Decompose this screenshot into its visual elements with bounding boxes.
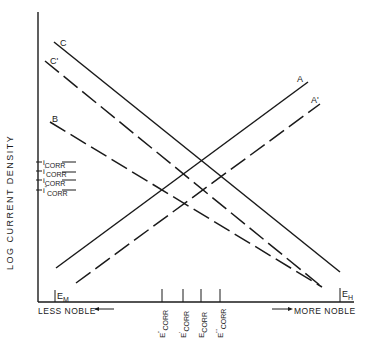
more-noble-label: MORE NOBLE (294, 306, 356, 316)
e-corr-label-2: E'CORR (178, 311, 190, 338)
e-corr-label-4: E'''CORR (215, 309, 227, 338)
label-B: B (52, 114, 58, 124)
e-corr-label-1: E"CORR (157, 310, 169, 338)
em-marker: EM (55, 290, 69, 303)
line-A (56, 82, 308, 268)
label-C-prime: C' (50, 56, 58, 66)
arrow-right-icon (272, 307, 293, 311)
less-noble-label: LESS NOBLE (38, 306, 96, 316)
line-C-prime (45, 61, 322, 287)
e-corr-label-3: ECORR (197, 312, 208, 338)
y-axis-label: LOG CURRENT DENSITY (5, 135, 15, 270)
label-C: C (60, 38, 67, 48)
label-A: A (297, 74, 303, 84)
potential-ticks (162, 289, 220, 302)
eh-marker: EH (340, 288, 353, 302)
current-labels: iCORR i'CORR iCORR i"CORR (36, 158, 76, 197)
polarization-diagram: LOG CURRENT DENSITY C C' B A A' iCORR i'… (0, 0, 366, 345)
arrow-left-icon (94, 307, 114, 311)
svg-text:EH: EH (342, 289, 353, 301)
line-A-prime (76, 104, 320, 283)
svg-text:EM: EM (57, 291, 69, 303)
svg-text:iCORR: iCORR (43, 158, 65, 169)
line-B (50, 122, 322, 287)
label-A-prime: A' (311, 95, 319, 105)
